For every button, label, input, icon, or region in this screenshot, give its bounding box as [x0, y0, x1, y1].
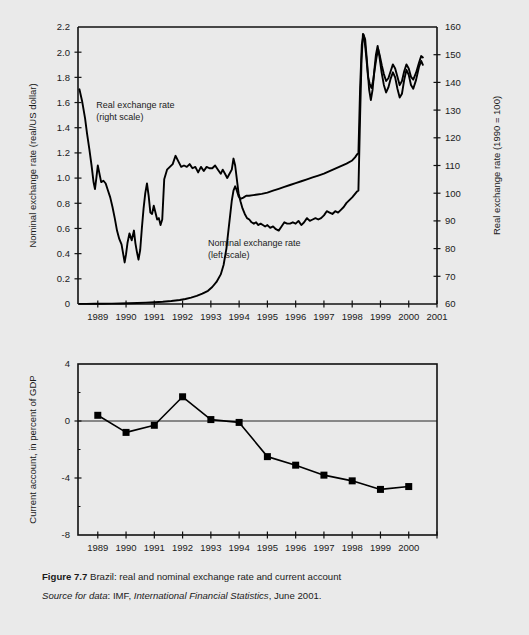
data-point-marker	[94, 412, 101, 419]
source-note: Source for data: IMF, International Fina…	[42, 591, 512, 601]
real-rate-annotation: Real exchange rate(right scale)	[96, 100, 174, 122]
y-axis-tick-label: 0	[65, 415, 70, 426]
plot-frame	[78, 364, 437, 535]
x-axis-tick-label: 1996	[285, 311, 306, 322]
right-axis-tick-label: 100	[445, 188, 461, 199]
y-axis-tick-label: -8	[62, 529, 70, 540]
annotation-line-2: (right scale)	[96, 112, 143, 122]
source-text-2: , June 2001.	[269, 590, 322, 601]
data-point-marker	[264, 453, 271, 460]
right-axis-tick-label: 70	[445, 271, 456, 282]
left-axis-tick-label: 0.8	[57, 198, 70, 209]
x-axis-tick-label: 1995	[257, 311, 278, 322]
data-point-marker	[349, 477, 356, 484]
x-axis-tick-label: 1990	[115, 311, 136, 322]
y-axis-tick-label: 4	[65, 358, 70, 369]
annotation-line-2: (left scale)	[208, 250, 250, 260]
figure-caption: Figure 7.7 Brazil: real and nominal exch…	[42, 572, 512, 582]
x-axis-tick-label: 1996	[285, 542, 306, 553]
figure-container: 00.20.40.60.81.01.21.41.61.82.02.2607080…	[0, 0, 529, 635]
current-account-chart: -8-4041989199019911992199319941995199619…	[0, 352, 529, 567]
series-line	[98, 397, 409, 490]
series-line	[79, 34, 422, 263]
x-axis-tick-label: 2000	[398, 311, 419, 322]
x-axis-tick-label: 1991	[144, 542, 165, 553]
right-axis-tick-label: 110	[445, 160, 460, 171]
left-axis-tick-label: 1.6	[57, 97, 70, 108]
left-axis-tick-label: 1.0	[57, 172, 70, 183]
x-axis-tick-label: 1994	[229, 311, 250, 322]
exchange-rate-chart: 00.20.40.60.81.01.21.41.61.82.02.2607080…	[0, 0, 529, 340]
right-axis-tick-label: 90	[445, 215, 456, 226]
x-axis-tick-label: 1989	[87, 542, 108, 553]
x-axis-tick-label: 1993	[200, 311, 221, 322]
data-point-marker	[377, 486, 384, 493]
nominal-rate-annotation: Nominal exchange rate(left scale)	[208, 238, 301, 260]
x-axis-tick-label: 1992	[172, 542, 193, 553]
source-publication: International Financial Statistics	[134, 590, 269, 601]
right-axis-tick-label: 160	[445, 21, 461, 32]
data-point-marker	[207, 416, 214, 423]
left-axis-tick-label: 2.2	[57, 21, 70, 32]
data-point-marker	[292, 462, 299, 469]
right-axis-tick-label: 80	[445, 243, 456, 254]
x-axis-tick-label: 1999	[370, 542, 391, 553]
right-axis-tick-label: 130	[445, 105, 461, 116]
x-axis-tick-label: 2001	[426, 311, 447, 322]
y-axis-title: Current account, in percent of GDP	[27, 375, 38, 523]
right-axis-tick-label: 140	[445, 77, 461, 88]
right-axis-tick-label: 150	[445, 49, 461, 60]
data-point-marker	[236, 419, 243, 426]
x-axis-tick-label: 1992	[172, 311, 193, 322]
data-point-marker	[405, 483, 412, 490]
x-axis-tick-label: 1991	[144, 311, 165, 322]
x-axis-tick-label: 1989	[87, 311, 108, 322]
left-axis-tick-label: 1.8	[57, 72, 70, 83]
right-axis-tick-label: 60	[445, 298, 456, 309]
figure-caption-text: Brazil: real and nominal exchange rate a…	[90, 571, 341, 582]
caption-block: Figure 7.7 Brazil: real and nominal exch…	[42, 572, 512, 610]
left-axis-tick-label: 0	[65, 298, 70, 309]
left-axis-tick-label: 0.6	[57, 223, 70, 234]
x-axis-tick-label: 1997	[313, 542, 334, 553]
bottom-chart-plot-area: -8-4041989199019911992199319941995199619…	[27, 358, 437, 553]
left-axis-tick-label: 1.2	[57, 147, 70, 158]
data-point-marker	[179, 393, 186, 400]
left-axis-tick-label: 2.0	[57, 47, 70, 58]
source-text-1: : IMF,	[108, 590, 134, 601]
annotation-line-1: Real exchange rate	[96, 100, 174, 110]
x-axis-tick-label: 1999	[370, 311, 391, 322]
data-point-marker	[320, 472, 327, 479]
x-axis-tick-label: 1995	[257, 542, 278, 553]
figure-number: Figure 7.7	[42, 571, 87, 582]
left-axis-tick-label: 0.4	[57, 248, 70, 259]
annotation-line-1: Nominal exchange rate	[208, 238, 301, 248]
x-axis-tick-label: 1994	[229, 542, 250, 553]
data-point-marker	[123, 429, 130, 436]
x-axis-tick-label: 1990	[115, 542, 136, 553]
x-axis-tick-label: 2000	[398, 542, 419, 553]
left-axis-tick-label: 0.2	[57, 273, 70, 284]
right-axis-tick-label: 120	[445, 132, 461, 143]
data-point-marker	[151, 422, 158, 429]
series-line	[79, 35, 422, 304]
x-axis-tick-label: 1997	[313, 311, 334, 322]
x-axis-tick-label: 1993	[200, 542, 221, 553]
left-axis-title: Nominal exchange rate (real/US dollar)	[27, 83, 38, 247]
x-axis-tick-label: 1998	[342, 542, 363, 553]
right-axis-title: Real exchange rate (1990 = 100)	[491, 96, 502, 235]
x-axis-tick-label: 1998	[342, 311, 363, 322]
source-label: Source for data	[42, 590, 108, 601]
y-axis-tick-label: -4	[62, 472, 70, 483]
left-axis-tick-label: 1.4	[57, 122, 70, 133]
top-chart-plot-area: 00.20.40.60.81.01.21.41.61.82.02.2607080…	[27, 21, 502, 322]
